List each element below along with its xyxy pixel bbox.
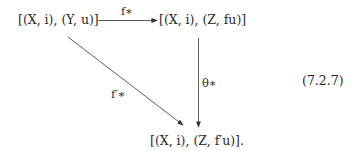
node-bottom: [(X, i), (Z, f′u)].	[150, 134, 244, 148]
node-top-left: [(X, i), (Y, u)]	[18, 13, 99, 27]
label-theta-star: θ∗	[202, 77, 217, 89]
node-top-right: [(X, i), (Z, fu)]	[159, 13, 246, 27]
arrow-f-prime-star	[68, 37, 183, 125]
label-f-prime-star: f′∗	[111, 88, 126, 100]
equation-number: (7.2.7)	[302, 74, 344, 88]
label-f-star: f∗	[121, 5, 133, 17]
